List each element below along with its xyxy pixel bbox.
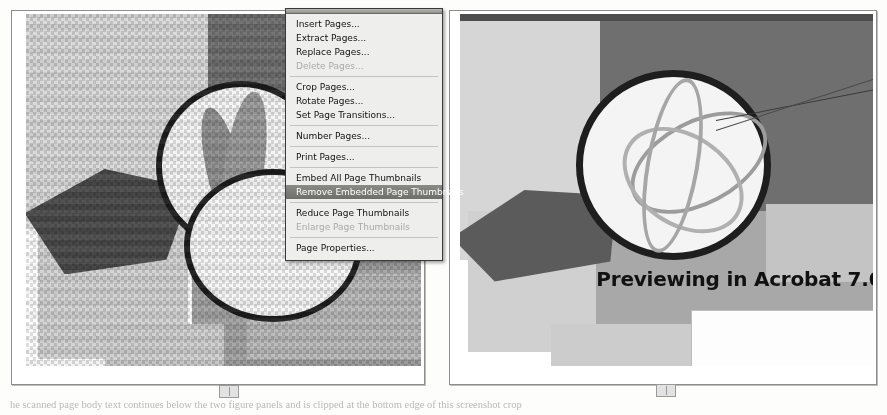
artwork-shape-foot — [551, 324, 691, 366]
artwork-shape-bottom-band — [691, 310, 873, 366]
menu-item: Delete Pages... — [286, 59, 442, 73]
menu-item[interactable]: Number Pages... — [286, 129, 442, 143]
pages-context-menu[interactable]: Insert Pages...Extract Pages...Replace P… — [285, 8, 443, 261]
menu-separator — [290, 237, 438, 238]
artwork-shape-top-bar — [460, 14, 873, 21]
menu-separator — [290, 125, 438, 126]
menu-item[interactable]: Replace Pages... — [286, 45, 442, 59]
menu-item[interactable]: Extract Pages... — [286, 31, 442, 45]
menu-item[interactable]: Insert Pages... — [286, 17, 442, 31]
menu-titlebar — [286, 9, 442, 14]
menu-item[interactable]: Print Pages... — [286, 150, 442, 164]
menu-separator — [290, 76, 438, 77]
menu-item[interactable]: Crop Pages... — [286, 80, 442, 94]
menu-separator — [290, 202, 438, 203]
smooth-artwork: Previewing in Acrobat 7.0 — [460, 14, 873, 366]
panel-inner-right: Previewing in Acrobat 7.0 — [450, 11, 876, 384]
page-thumbnail-tab-right[interactable] — [656, 384, 676, 397]
pages-menu-item-list: Insert Pages...Extract Pages...Replace P… — [286, 17, 442, 255]
figure-panel-smooth: Previewing in Acrobat 7.0 — [449, 10, 877, 385]
menu-item[interactable]: Page Properties... — [286, 241, 442, 255]
page-body-text: he scanned page body text continues belo… — [10, 398, 878, 415]
menu-item[interactable]: Rotate Pages... — [286, 94, 442, 108]
preview-caption: Previewing in Acrobat 7.0 — [596, 267, 873, 291]
page-thumbnail-tab-left[interactable] — [219, 385, 239, 398]
menu-item[interactable]: Embed All Page Thumbnails — [286, 171, 442, 185]
menu-separator — [290, 167, 438, 168]
menu-item[interactable]: Set Page Transitions... — [286, 108, 442, 122]
menu-separator — [290, 146, 438, 147]
menu-item: Enlarge Page Thumbnails — [286, 220, 442, 234]
artwork-shape-foot — [105, 324, 224, 366]
scanned-page-background: Previewing in Acrobat 7.0 Insert Pages..… — [0, 0, 887, 415]
menu-item[interactable]: Reduce Page Thumbnails — [286, 206, 442, 220]
menu-item[interactable]: Remove Embedded Page Thumbnails — [286, 185, 442, 199]
